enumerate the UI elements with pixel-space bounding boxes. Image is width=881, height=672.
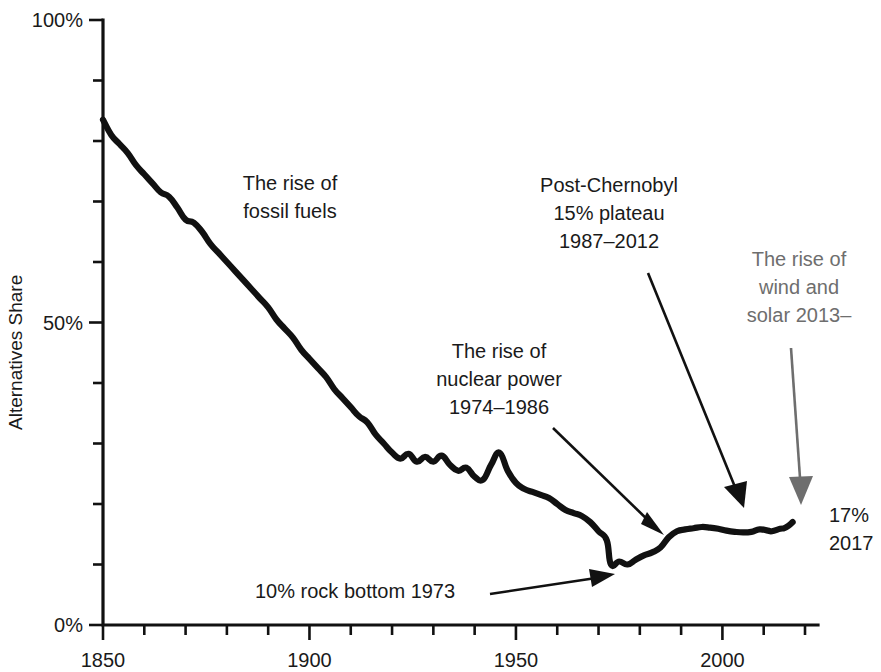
annotation-fossil-fuels-line-2: fossil fuels: [243, 200, 336, 222]
x-axis-tick-labels: 1850190019502000: [81, 649, 745, 671]
annotation-rock-bottom-arrow-head: [589, 569, 615, 587]
annotation-wind-solar-arrow-head: [789, 476, 813, 505]
annotation-fossil-fuels-line-1: The rise of: [243, 172, 338, 194]
annotation-wind-solar-arrow-line: [791, 348, 800, 478]
y-axis-title: Alternatives Share: [5, 275, 26, 430]
y-tick-label: 100%: [32, 9, 83, 31]
y-tick-label: 0%: [54, 614, 83, 636]
annotation-nuclear-power-line-2: nuclear power: [436, 368, 562, 390]
annotation-wind-solar-line-3: solar 2013–: [747, 304, 852, 326]
y-tick-label: 50%: [43, 312, 83, 334]
annotation-post-chernobyl: Post-Chernobyl 15% plateau 1987–2012: [540, 174, 747, 508]
endpoint-label: 17% 2017: [829, 504, 874, 554]
x-tick-label: 1950: [494, 649, 539, 671]
annotation-post-chernobyl-line-1: Post-Chernobyl: [540, 174, 678, 196]
x-tick-label: 2000: [700, 649, 745, 671]
x-tick-label: 1900: [287, 649, 332, 671]
y-axis-ticks: [89, 20, 103, 625]
annotation-rock-bottom-arrow-line: [490, 578, 596, 594]
axis-lines: [103, 20, 818, 625]
endpoint-year: 2017: [829, 532, 874, 554]
axes-group: [103, 20, 818, 625]
endpoint-value: 17%: [829, 504, 869, 526]
annotation-nuclear-power-line-1: The rise of: [452, 340, 547, 362]
annotation-nuclear-power-line-3: 1974–1986: [449, 396, 549, 418]
x-axis-ticks: [103, 625, 805, 640]
chart-container: 0%50%100% 1850190019502000 Alternatives …: [0, 0, 881, 672]
y-axis-tick-labels: 0%50%100%: [32, 9, 83, 636]
annotation-post-chernobyl-line-2: 15% plateau: [553, 202, 664, 224]
annotation-post-chernobyl-line-3: 1987–2012: [559, 230, 659, 252]
annotation-rock-bottom: 10% rock bottom 1973: [255, 569, 615, 602]
annotation-rock-bottom-label: 10% rock bottom 1973: [255, 580, 455, 602]
annotation-nuclear-power: The rise of nuclear power 1974–1986: [436, 340, 664, 535]
alternatives-share-line-chart: 0%50%100% 1850190019502000 Alternatives …: [0, 0, 881, 672]
annotation-fossil-fuels: The rise of fossil fuels: [243, 172, 338, 222]
annotation-wind-solar-line-2: wind and: [758, 276, 839, 298]
annotation-post-chernobyl-arrow-line: [648, 273, 735, 487]
annotation-post-chernobyl-arrow-head: [724, 481, 747, 508]
x-tick-label: 1850: [81, 649, 126, 671]
annotation-wind-solar-line-1: The rise of: [752, 248, 847, 270]
annotation-wind-solar: The rise of wind and solar 2013–: [747, 248, 852, 505]
data-line-alternatives-share: [103, 120, 793, 566]
